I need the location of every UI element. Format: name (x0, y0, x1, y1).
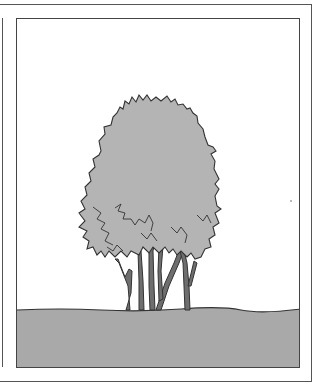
ground (17, 308, 300, 368)
shrub-illustration (17, 19, 300, 368)
left-panel-edge (0, 18, 3, 367)
illustration-panel (16, 18, 300, 368)
speck (290, 200, 292, 202)
